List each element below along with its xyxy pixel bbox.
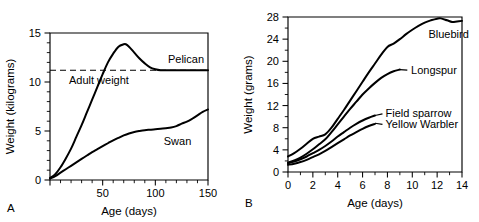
leader-line <box>375 123 382 124</box>
two-panel-growth-curves-figure: 50100150 051015 PelicanSwan Adult weight… <box>0 0 479 222</box>
panel-a-letter: A <box>7 202 15 214</box>
panel-b: 02468101214 0481216202428 BluebirdLongsp… <box>242 11 469 209</box>
panel-a-annotations: Adult weight <box>69 74 129 86</box>
panel-a-series-labels: PelicanSwan <box>164 53 204 146</box>
panel-b-series-labels: BluebirdLongspurField sparrowYellow Warb… <box>386 28 469 131</box>
panel-a-y-tick-marks <box>45 33 51 180</box>
series-label-bluebird: Bluebird <box>428 28 468 40</box>
series-label-longspur: Longspur <box>411 64 457 76</box>
x-tick-label: 6 <box>360 179 366 191</box>
panel-b-letter: B <box>245 197 253 209</box>
panel-b-y-tick-labels: 0481216202428 <box>267 11 279 178</box>
x-tick-label: 2 <box>310 179 316 191</box>
x-tick-label: 50 <box>97 187 109 199</box>
panel-b-plot-area <box>283 17 463 178</box>
y-tick-label: 0 <box>273 166 279 178</box>
series-label-yellow-warbler: Yellow Warbler <box>386 118 459 130</box>
panel-b-x-tick-labels: 02468101214 <box>285 179 468 191</box>
panel-a: 50100150 051015 PelicanSwan Adult weight… <box>4 27 217 217</box>
x-tick-label: 100 <box>146 187 164 199</box>
y-tick-label: 12 <box>267 100 279 112</box>
y-tick-label: 24 <box>267 33 279 45</box>
y-tick-label: 5 <box>35 125 41 137</box>
x-tick-label: 14 <box>456 179 468 191</box>
series-label-pelican: Pelican <box>168 53 204 65</box>
x-tick-label: 8 <box>384 179 390 191</box>
panel-b-y-axis-title: Weight (grams) <box>242 55 254 134</box>
leader-line <box>400 70 407 71</box>
panel-b-x-tick-marks <box>288 172 462 178</box>
figure-container: 50100150 051015 PelicanSwan Adult weight… <box>0 0 479 222</box>
y-tick-label: 4 <box>273 144 279 156</box>
y-tick-label: 10 <box>29 76 41 88</box>
panel-b-data-curves <box>288 18 462 165</box>
panel-a-y-tick-labels: 051015 <box>29 27 41 186</box>
annotation-adult-weight: Adult weight <box>69 74 129 86</box>
y-tick-label: 28 <box>267 11 279 23</box>
y-tick-label: 8 <box>273 122 279 134</box>
panel-b-x-axis-title: Age (days) <box>347 197 403 209</box>
curve-longspur <box>288 70 400 163</box>
x-tick-label: 12 <box>431 179 443 191</box>
curve-field-sparrow <box>288 116 375 164</box>
y-tick-label: 16 <box>267 77 279 89</box>
panel-a-x-axis-title: Age (days) <box>101 205 157 217</box>
y-tick-label: 0 <box>35 174 41 186</box>
x-tick-label: 10 <box>406 179 418 191</box>
panel-b-y-tick-marks <box>283 17 289 172</box>
panel-a-y-axis-title: Weight (kilograms) <box>4 59 16 155</box>
x-tick-label: 4 <box>335 179 341 191</box>
panel-a-x-tick-labels: 50100150 <box>97 187 218 199</box>
panel-a-x-tick-marks <box>50 180 208 186</box>
y-tick-label: 20 <box>267 55 279 67</box>
x-tick-label: 0 <box>285 179 291 191</box>
leader-line <box>375 114 382 116</box>
x-tick-label: 150 <box>199 187 217 199</box>
y-tick-label: 15 <box>29 27 41 39</box>
series-label-swan: Swan <box>164 135 192 147</box>
